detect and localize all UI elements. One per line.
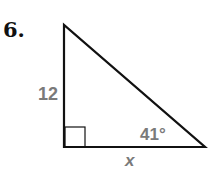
vertical-leg-label: 12 — [38, 84, 58, 104]
triangle-diagram: 12 41° x — [0, 0, 215, 177]
angle-label: 41° — [140, 125, 166, 144]
right-angle-marker — [65, 127, 85, 147]
horizontal-leg-label: x — [124, 151, 136, 170]
